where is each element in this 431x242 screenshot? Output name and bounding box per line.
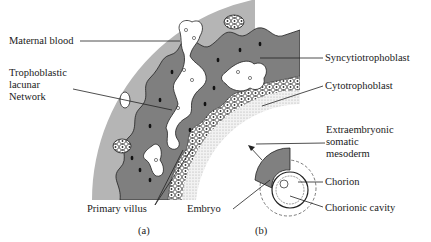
label-chorion: Chorion — [325, 176, 359, 188]
label-extraembryonic: Extraembryonic — [326, 124, 394, 136]
label-mesoderm: mesoderm — [326, 148, 370, 160]
label-syncytiotrophoblast: Syncytiotrophoblast — [325, 52, 410, 64]
label-network: Network — [9, 91, 46, 103]
maternal-gland-left — [113, 139, 131, 153]
maternal-gland-top — [224, 15, 244, 29]
label-lacunar: lacunar — [9, 79, 40, 91]
label-maternal-blood: Maternal blood — [9, 35, 73, 47]
label-chorionic-cavity: Chorionic cavity — [325, 202, 395, 214]
caption-b: (b) — [255, 225, 267, 236]
label-somatic: somatic — [326, 136, 359, 148]
label-cytotrophoblast: Cytotrophoblast — [325, 80, 393, 92]
caption-a: (a) — [138, 225, 150, 236]
label-embryo: Embryo — [187, 203, 221, 215]
label-primary-villus: Primary villus — [87, 203, 147, 215]
label-trophoblastic: Trophoblastic — [9, 67, 67, 79]
